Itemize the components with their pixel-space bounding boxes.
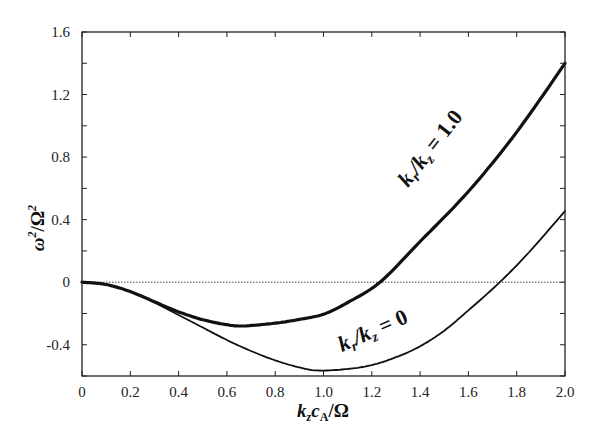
y-tick-label: 1.2: [51, 87, 70, 103]
curve-kr-kz-1: [82, 63, 565, 326]
x-tick-label: 1.6: [459, 384, 478, 400]
y-axis-title: ω2/Ω2: [25, 205, 48, 251]
x-tick-label: 0.4: [169, 384, 188, 400]
x-tick-label: 1.8: [507, 384, 526, 400]
x-tick-label: 1.4: [411, 384, 430, 400]
y-tick-label: 0.8: [51, 149, 70, 165]
x-tick-label: 0.8: [266, 384, 285, 400]
x-tick-label: 1.2: [362, 384, 381, 400]
x-tick-label: 0.6: [218, 384, 237, 400]
plot-frame: [82, 32, 565, 376]
curve-label-kr-kz-0: kr/kz = 0: [334, 304, 412, 359]
y-tick-label: 0: [63, 274, 71, 290]
x-tick-label: 1.0: [314, 384, 333, 400]
x-tick-label: 0.2: [121, 384, 140, 400]
x-axis-ticks: 00.20.40.60.81.01.21.41.61.82.0: [78, 32, 574, 400]
y-tick-label: 1.6: [51, 24, 70, 40]
x-axis-title: kzcA/Ω: [297, 400, 349, 424]
y-tick-label: 0.4: [51, 212, 70, 228]
curve-kr-kz-0: [82, 211, 565, 371]
x-tick-label: 0: [78, 384, 86, 400]
y-tick-label: -0.4: [46, 337, 70, 353]
x-tick-label: 2.0: [556, 384, 575, 400]
curve-label-kr-kz-1: kr/kz = 1.0: [392, 105, 469, 193]
chart: 00.20.40.60.81.01.21.41.61.82.0 -0.400.4…: [0, 0, 606, 448]
y-axis-ticks: -0.400.40.81.21.6: [46, 24, 565, 376]
